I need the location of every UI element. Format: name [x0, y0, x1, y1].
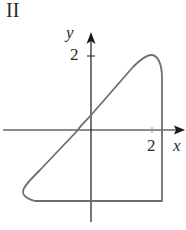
parametric-curve — [23, 55, 162, 201]
plot-area — [0, 0, 186, 230]
